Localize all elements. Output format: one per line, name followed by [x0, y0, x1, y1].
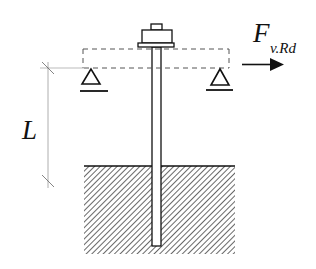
nut-body [142, 30, 172, 43]
left-pin-support-icon [80, 69, 108, 91]
nut-cap [151, 24, 162, 30]
anchor-shear-diagram: F v.Rd L [0, 0, 316, 269]
anchor-rod [152, 47, 161, 246]
length-label: L [22, 117, 37, 144]
force-subscript: v.Rd [270, 41, 296, 56]
washer [138, 43, 174, 47]
right-pin-support-icon [206, 69, 233, 90]
nut-assembly [138, 24, 174, 47]
force-arrow-icon [242, 58, 284, 71]
force-label: F [253, 20, 270, 47]
length-dimension-line [42, 62, 54, 188]
